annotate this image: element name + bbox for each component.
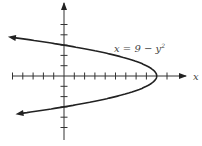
- equation-label: x = 9 − y2: [114, 42, 165, 54]
- parabola-graph: x = 9 − y2 x: [0, 0, 202, 146]
- x-axis-label: x: [193, 71, 199, 82]
- upper-arrow-icon: [8, 35, 16, 41]
- exponent: 2: [160, 42, 165, 49]
- lower-arrow-icon: [16, 110, 24, 116]
